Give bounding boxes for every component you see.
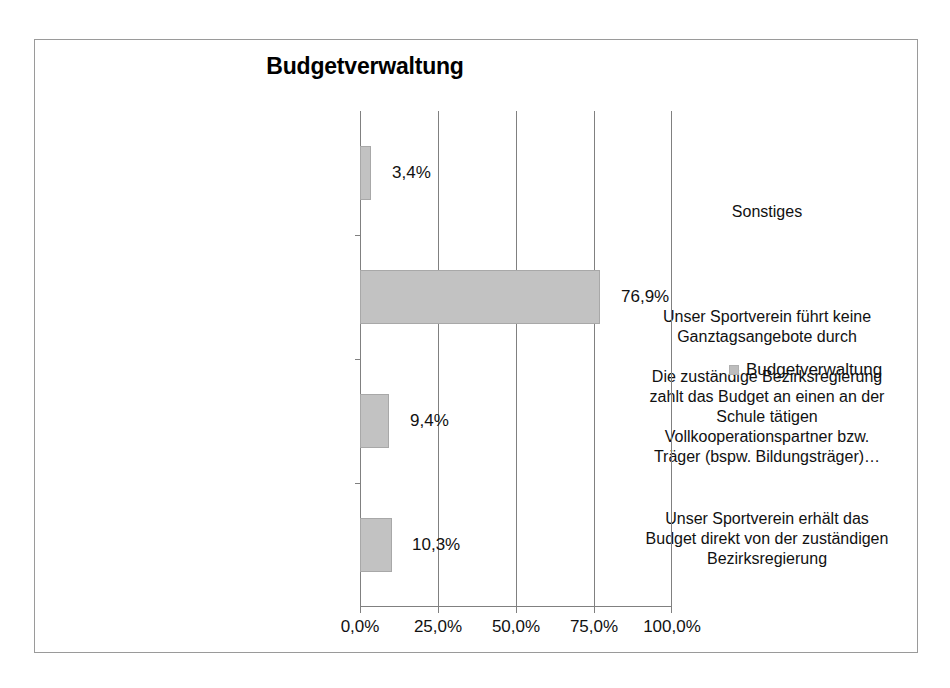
gridline-75 bbox=[594, 111, 595, 607]
data-label-sonstiges: 3,4% bbox=[392, 163, 431, 183]
category-tick bbox=[355, 235, 360, 236]
gridline-100 bbox=[671, 111, 672, 607]
x-tick-mark-100 bbox=[671, 607, 672, 613]
bar-budget-direkt[interactable] bbox=[360, 518, 392, 572]
x-tick-label-50: 50,0% bbox=[477, 617, 555, 637]
category-tick bbox=[355, 483, 360, 484]
x-tick-label-100: 100,0% bbox=[633, 617, 711, 637]
category-tick bbox=[355, 359, 360, 360]
chart-legend: Budgetverwaltung bbox=[729, 360, 882, 380]
gridline-50 bbox=[516, 111, 517, 607]
x-tick-label-75: 75,0% bbox=[555, 617, 633, 637]
bar-sonstiges[interactable] bbox=[360, 146, 371, 200]
chart-title: Budgetverwaltung bbox=[35, 53, 695, 80]
chart-frame: Budgetverwaltung Sonstiges Unser Sportve… bbox=[34, 39, 918, 653]
legend-swatch-icon bbox=[729, 365, 739, 375]
bar-keine-ganztagsangebote[interactable] bbox=[360, 270, 600, 324]
legend-label-budgetverwaltung: Budgetverwaltung bbox=[746, 360, 882, 380]
bar-bezirksregierung-vollkooperationspartner[interactable] bbox=[360, 394, 389, 448]
x-tick-label-25: 25,0% bbox=[399, 617, 477, 637]
data-label-keine-ganztagsangebote: 76,9% bbox=[621, 287, 669, 307]
x-tick-label-0: 0,0% bbox=[321, 617, 399, 637]
gridline-25 bbox=[438, 111, 439, 607]
plot-area: 3,4% 76,9% 9,4% 10,3% 0,0% 25,0% 50,0% 7… bbox=[360, 111, 672, 607]
data-label-budget-direkt: 10,3% bbox=[412, 535, 460, 555]
x-tick-mark-25 bbox=[438, 607, 439, 613]
x-tick-mark-0 bbox=[360, 607, 361, 613]
x-tick-mark-50 bbox=[516, 607, 517, 613]
data-label-bezirksregierung-vollkooperationspartner: 9,4% bbox=[410, 411, 449, 431]
cropped-top-text bbox=[0, 0, 950, 6]
x-tick-mark-75 bbox=[594, 607, 595, 613]
